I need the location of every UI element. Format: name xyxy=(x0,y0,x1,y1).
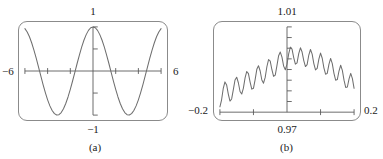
panel-b-left-label: −0.2 xyxy=(188,105,208,116)
panel-a-caption: (a) xyxy=(0,141,190,153)
panel-a-bottom-label: −1 xyxy=(87,124,99,135)
figure-container: 1 −1 −6 6 (a) 1.01 0.97 −0.2 0.2 (b) xyxy=(0,0,383,159)
panel-b-top-label: 1.01 xyxy=(277,6,296,17)
plot-area-b xyxy=(214,22,360,120)
panel-b-bottom-label: 0.97 xyxy=(277,124,296,135)
panel-a-top-label: 1 xyxy=(90,6,96,17)
graph-panel-b: 1.01 0.97 −0.2 0.2 (b) xyxy=(190,0,383,159)
calculator-screen-a[interactable] xyxy=(18,21,168,121)
calculator-screen-b[interactable] xyxy=(213,21,361,121)
graph-panel-a: 1 −1 −6 6 (a) xyxy=(0,0,190,159)
panel-b-caption: (b) xyxy=(190,141,383,153)
panel-b-right-label: 0.2 xyxy=(364,105,378,116)
panel-a-right-label: 6 xyxy=(173,66,179,77)
panel-a-left-label: −6 xyxy=(2,66,14,77)
plot-area-a xyxy=(19,22,167,120)
